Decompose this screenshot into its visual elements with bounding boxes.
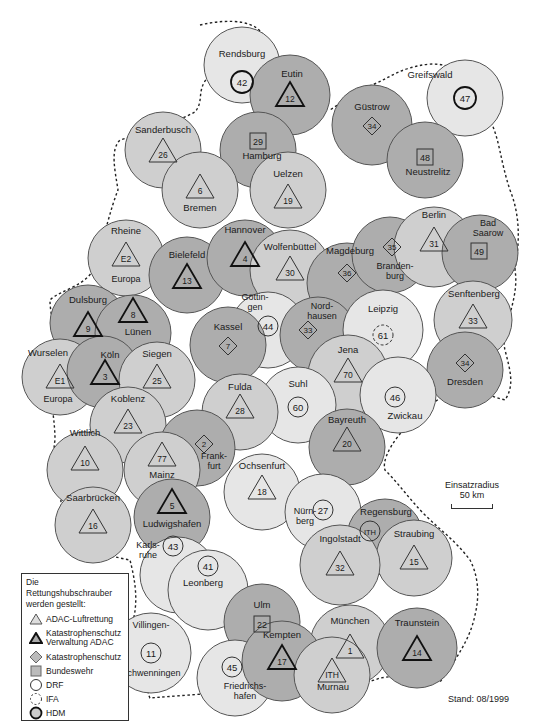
station-name: hausen: [307, 311, 337, 321]
station-name: Fulda: [228, 381, 252, 392]
station-name: burg: [386, 271, 404, 281]
station-number: 77: [157, 454, 167, 464]
station-number: 7: [226, 342, 231, 351]
station-number: 34: [461, 359, 470, 368]
station-number: 23: [123, 421, 133, 431]
station-number: 16: [88, 521, 98, 531]
station-name: Suhl: [288, 378, 307, 389]
station-name: Sanderbusch: [135, 124, 191, 135]
station-number: 33: [468, 316, 478, 326]
station-name: Branden-: [376, 261, 413, 271]
station-number: E1: [55, 376, 66, 386]
legend-item-drf: DRF: [26, 678, 124, 692]
station-number: 10: [80, 458, 90, 468]
coverage-circle-uelzen: [250, 152, 326, 228]
diamond-icon: [26, 650, 46, 664]
station-number: ITH: [325, 670, 339, 680]
legend-item-katastrophenschutz-adac: KatastrophenschutzVerwaltung ADAC: [26, 626, 124, 650]
station-number: 30: [285, 268, 295, 278]
station-name: Karls-: [136, 540, 160, 550]
station-name: Mainz: [149, 469, 175, 480]
station-name: Straubing: [394, 528, 435, 539]
station-number: 12: [285, 94, 295, 104]
legend-item-adac: ADAC-Luftrettung: [26, 612, 124, 626]
station-number: 3: [103, 372, 108, 382]
station-number: 15: [409, 557, 419, 567]
station-name: Uelzen: [273, 168, 303, 179]
station-number: 49: [474, 247, 484, 257]
station-name: Güstrow: [354, 101, 390, 112]
legend-title: Die Rettungshubschrauber werden gestellt…: [26, 577, 124, 610]
station-number: 33: [304, 326, 313, 335]
bold-circle-icon: [26, 706, 46, 720]
station-name: Bremen: [183, 202, 216, 213]
station-number: 26: [158, 150, 168, 160]
station-number: 25: [152, 376, 162, 386]
station-name: Leipzig: [368, 303, 398, 314]
station-number: 43: [168, 541, 179, 552]
station-number: E2: [121, 254, 132, 264]
station-name: Senftenberg: [448, 288, 500, 299]
scale-label: Einsatzradius: [432, 480, 512, 490]
station-number: 70: [343, 370, 353, 380]
station-number: 27: [318, 505, 329, 516]
scale-value: 50 km: [432, 490, 512, 500]
station-number: 41: [203, 561, 214, 572]
station-number: 2: [202, 440, 207, 449]
station-number: 42: [237, 77, 248, 88]
station-name: Ludwigshafen: [143, 518, 202, 529]
station-number: 9: [86, 324, 91, 334]
station-name: Greifswald: [408, 69, 453, 80]
station-name: ruhe: [139, 550, 157, 560]
station-name: Hamburg: [242, 150, 281, 161]
station-number: 60: [293, 402, 304, 413]
station-number: 29: [253, 137, 263, 147]
station-name: Neustrelitz: [406, 166, 451, 177]
station-name: berg: [296, 516, 314, 526]
station-name: Nord-: [311, 301, 334, 311]
station-number: 46: [390, 392, 401, 403]
station-name: Göttin-: [241, 292, 268, 302]
station-name: Kempten: [263, 629, 301, 640]
station-name: Traunstein: [395, 617, 440, 628]
station-name: Kassel: [214, 321, 243, 332]
station-number: 61: [378, 330, 389, 341]
square-icon: [26, 664, 46, 678]
station-name: hafen: [234, 691, 257, 701]
station-name: Schwenningen: [121, 668, 180, 678]
station-number: 5: [170, 501, 175, 511]
legend-item-katastrophenschutz: Katastrophenschutz: [26, 650, 124, 664]
station-name: Villingen-: [133, 620, 170, 630]
scale-bar: [451, 504, 493, 509]
station-number: 35: [388, 243, 397, 252]
station-number: 48: [420, 153, 430, 163]
station-number: 6: [198, 186, 203, 196]
station-number: 13: [182, 276, 192, 286]
station-number: 4: [243, 254, 248, 264]
station-name: Hannover: [224, 224, 265, 235]
station-name: Dresden: [447, 376, 483, 387]
station-name: Regensburg: [360, 506, 412, 517]
legend-item-hdm: HDM: [26, 706, 124, 720]
station-name: Ochsenfurt: [239, 460, 286, 471]
station-number: 47: [460, 93, 471, 104]
station-number: 17: [277, 657, 287, 667]
station-name: Bad: [480, 218, 496, 228]
station-name: Dulsburg: [69, 294, 107, 305]
station-name: Siegen: [142, 348, 172, 359]
station-name: Bayreuth: [328, 414, 366, 425]
station-number: 36: [343, 269, 352, 278]
station-name: Wittlich: [70, 427, 101, 438]
station-name: München: [330, 615, 369, 626]
station-name: Rendsburg: [219, 48, 265, 59]
station-name: Wolfenbüttel: [264, 241, 317, 252]
station-name: Murnau: [317, 681, 349, 692]
station-number: ITH: [364, 528, 376, 537]
station-number: 11: [146, 648, 156, 659]
station-name: Ulm: [254, 599, 271, 610]
triangle-icon: [26, 612, 46, 626]
legend-item-ifa: IFA: [26, 692, 124, 706]
station-name: Saarow: [473, 228, 504, 238]
legend-item-bundeswehr: Bundeswehr: [26, 664, 124, 678]
station-name: Friedrichs-: [224, 681, 267, 691]
